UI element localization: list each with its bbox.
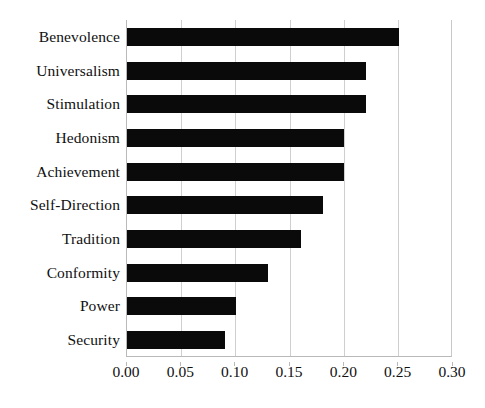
bar — [127, 331, 225, 349]
y-axis-label: Hedonism — [0, 130, 120, 146]
y-axis-label: Universalism — [0, 63, 120, 79]
bar — [127, 196, 323, 214]
x-axis-tick-label: 0.25 — [384, 362, 411, 382]
bar — [127, 129, 344, 147]
gridline — [398, 20, 399, 356]
x-axis-tick-label: 0.30 — [438, 362, 465, 382]
plot-area — [126, 20, 452, 357]
bar — [127, 297, 236, 315]
bar — [127, 264, 268, 282]
x-axis-tick-label: 0.00 — [112, 362, 139, 382]
bar — [127, 163, 344, 181]
bar — [127, 28, 399, 46]
x-axis-tick-label: 0.20 — [330, 362, 357, 382]
bar — [127, 230, 301, 248]
bar — [127, 62, 366, 80]
x-axis-tick-label: 0.10 — [221, 362, 248, 382]
y-axis-label: Power — [0, 298, 120, 314]
x-axis-tick-label: 0.05 — [167, 362, 194, 382]
y-axis-category-labels: BenevolenceUniversalismStimulationHedoni… — [0, 20, 120, 357]
y-axis-label: Tradition — [0, 231, 120, 247]
bar-chart: BenevolenceUniversalismStimulationHedoni… — [0, 0, 485, 408]
y-axis-label: Conformity — [0, 265, 120, 281]
y-axis-label: Achievement — [0, 164, 120, 180]
y-axis-label: Security — [0, 332, 120, 348]
y-axis-label: Self-Direction — [0, 197, 120, 213]
x-axis-tick-labels: 0.000.050.100.150.200.250.30 — [126, 362, 452, 390]
x-axis-tick-label: 0.15 — [275, 362, 302, 382]
bar — [127, 95, 366, 113]
y-axis-label: Stimulation — [0, 96, 120, 112]
y-axis-label: Benevolence — [0, 29, 120, 45]
